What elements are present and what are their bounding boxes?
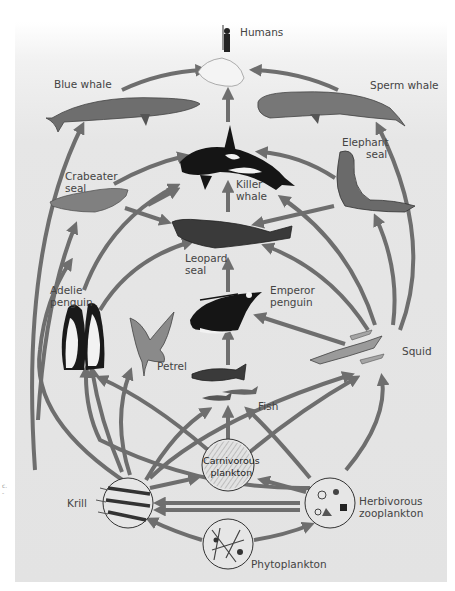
label-emperor-penguin: Emperor penguin — [270, 284, 315, 308]
arrow-spermwhale-humans — [254, 70, 338, 90]
emperor-penguin-illustration — [190, 292, 262, 334]
margin-text: c. - — [2, 482, 7, 496]
label-squid: Squid — [402, 345, 432, 357]
arrow-phyto-herb — [254, 525, 310, 540]
arrow-squid-emperor — [258, 316, 345, 344]
arrow-squid-elephant — [376, 218, 395, 325]
label-fish: Fish — [258, 400, 278, 412]
label-crabeater-seal: Crabeater seal — [65, 170, 118, 194]
label-killer-whale: Killer whale — [236, 178, 267, 202]
elephant-seal-illustration — [337, 151, 415, 212]
fish-illustration — [192, 364, 258, 401]
arrow-herb-squid — [346, 378, 383, 470]
krill-circle — [96, 478, 153, 528]
label-krill: Krill — [67, 497, 87, 509]
label-sperm-whale: Sperm whale — [370, 79, 439, 91]
phytoplankton-circle — [203, 519, 253, 569]
sperm-whale-illustration — [258, 92, 405, 126]
herbivorous-zooplankton-circle — [305, 478, 355, 528]
arrow-phyto-krill — [150, 520, 202, 540]
arrow-carn-adelie — [100, 378, 208, 450]
label-petrel: Petrel — [157, 360, 187, 372]
arrow-krill-carnivorous — [150, 478, 196, 488]
label-elephant-seal: Elephant seal — [342, 136, 389, 160]
blue-whale-illustration — [46, 98, 200, 132]
label-adelie-penguin: Adelie penguin — [50, 284, 93, 308]
arrow-crabeater-killerwhale — [114, 156, 185, 184]
arrow-carn-squid — [250, 378, 356, 452]
arrow-bluewhale-humans — [122, 70, 203, 90]
label-herbivorous-zooplankton: Herbivorous zooplankton — [359, 495, 423, 519]
adelie-penguin-illustration — [62, 303, 105, 370]
arrow-adelie-leopard — [100, 242, 190, 310]
label-carnivorous-plankton: Carnivorous plankton — [203, 455, 260, 479]
label-humans: Humans — [240, 26, 283, 38]
label-leopard-seal: Leopard seal — [185, 252, 227, 276]
label-blue-whale: Blue whale — [54, 78, 112, 90]
label-phytoplankton: Phytoplankton — [251, 558, 327, 570]
humans-illustration — [198, 25, 244, 86]
